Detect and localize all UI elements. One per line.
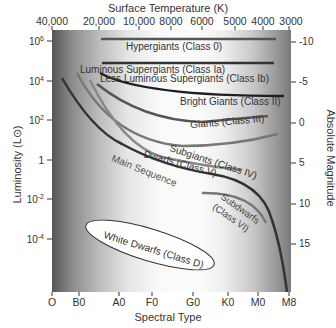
bottom-tick-label: K0 (222, 296, 235, 308)
bottom-tick-label: M8 (282, 296, 297, 308)
bottom-tick-label: M0 (251, 296, 266, 308)
top-tick-label: 20,000 (83, 15, 115, 27)
label-less-luminous-supergiants: Less Luminous Supergiants (Class Ib) (100, 73, 269, 84)
left-tick-label: 104 (4, 75, 44, 87)
label-bright-giants: Bright Giants (Class II) (180, 96, 281, 107)
bottom-tick-label: B0 (73, 296, 86, 308)
top-tick-label: 40,000 (36, 15, 68, 27)
right-tick-label: 0 (299, 117, 305, 128)
right-tick-label: 10 (299, 198, 310, 209)
right-tick-label: 5 (299, 157, 305, 168)
top-tick-label: 8000 (159, 15, 182, 27)
hr-diagram-plot: Hypergiants (Class 0) Luminous Supergian… (52, 30, 291, 292)
right-axis-title: Absolute Magnitude (325, 83, 336, 233)
bottom-axis-title: Spectral Type (0, 311, 336, 323)
top-tick-label: 3000 (279, 15, 302, 27)
right-tick-label: -5 (299, 76, 308, 87)
bottom-tick-label: O (48, 296, 56, 308)
top-axis-title: Surface Temperature (K) (0, 2, 336, 14)
left-axis-title: Luminosity (L⊙) (11, 110, 24, 220)
bottom-tick-label: A0 (113, 296, 126, 308)
label-hypergiants: Hypergiants (Class 0) (126, 41, 222, 52)
bottom-tick-label: F0 (146, 296, 158, 308)
bottom-tick-label: G0 (186, 296, 200, 308)
left-tick-label: 106 (4, 35, 44, 47)
top-tick-label: 10,000 (123, 15, 155, 27)
right-tick-label: 15 (299, 238, 310, 249)
top-tick-label: 4000 (251, 15, 274, 27)
right-tick-label: -10 (299, 36, 313, 47)
top-tick-label: 5000 (223, 15, 246, 27)
top-tick-label: 6000 (190, 15, 213, 27)
left-tick-label: 10-4 (4, 233, 44, 245)
